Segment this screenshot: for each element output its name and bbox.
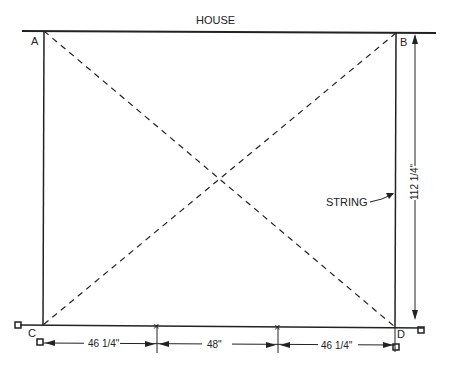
bottom-right-dimension-label: 46 1/4" — [321, 340, 353, 351]
house-label: HOUSE — [196, 14, 235, 26]
diagonal-ad — [44, 31, 395, 327]
arrow-right-icon — [145, 341, 155, 347]
corner-d-label: D — [397, 328, 405, 340]
bottom-left-dimension-label: 46 1/4" — [88, 338, 120, 349]
bottom-middle-dimension-label: 48" — [207, 339, 222, 350]
arrow-up-icon — [412, 34, 418, 44]
arrow-left-icon — [159, 341, 169, 347]
side-ac — [43, 31, 44, 325]
side-bd-string — [395, 33, 396, 327]
layout-diagram: HOUSE A B C D × × 112 1/4" STRING 46 1/4… — [0, 0, 449, 370]
arrow-right-icon — [266, 342, 276, 348]
arrow-down-icon — [412, 310, 418, 320]
corner-a-label: A — [31, 35, 39, 47]
diagonal-bc — [43, 33, 396, 325]
string-label: STRING — [326, 196, 368, 208]
arrow-left-icon — [280, 342, 290, 348]
mark-x-icon: × — [153, 320, 159, 332]
corner-b-label: B — [400, 36, 407, 48]
mark-x-icon: × — [274, 321, 280, 333]
vertical-dimension-label: 112 1/4" — [409, 163, 420, 200]
arrow-right-icon — [383, 342, 393, 348]
string-line-cd — [20, 325, 424, 328]
stake-icon — [37, 339, 43, 345]
corner-c-label: C — [28, 327, 36, 339]
arrow-icon — [386, 193, 394, 199]
arrow-left-icon — [45, 340, 55, 346]
house-wall-line — [22, 31, 436, 33]
